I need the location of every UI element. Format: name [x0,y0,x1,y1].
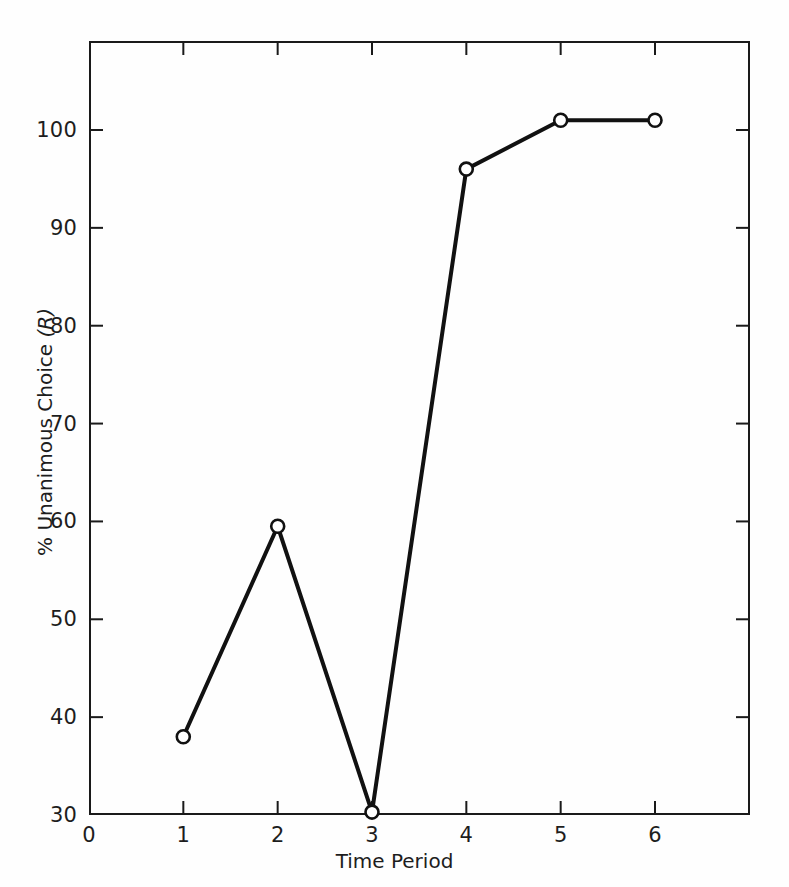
x-tick-label-5: 5 [554,823,567,847]
x-tick-label-4: 4 [460,823,473,847]
y-axis-title-italic: (R) [33,308,57,338]
y-tick-label-30: 30 [0,803,77,827]
y-tick-label-100: 100 [0,118,77,142]
x-tick-label-6: 6 [648,823,661,847]
x-tick-label-2: 2 [271,823,284,847]
x-tick-label-1: 1 [177,823,190,847]
x-tick-label-0: 0 [82,823,95,847]
x-axis-title: Time Period [0,849,789,873]
y-tick-label-40: 40 [0,705,77,729]
y-axis-title-text: % Unanimous Choice [33,344,57,556]
x-tick-label-3: 3 [365,823,378,847]
plot-frame [89,41,750,815]
y-axis-title: % Unanimous Choice (R) [33,182,57,682]
chart-figure: 30405060708090100 0123456 Time Period % … [0,0,789,887]
